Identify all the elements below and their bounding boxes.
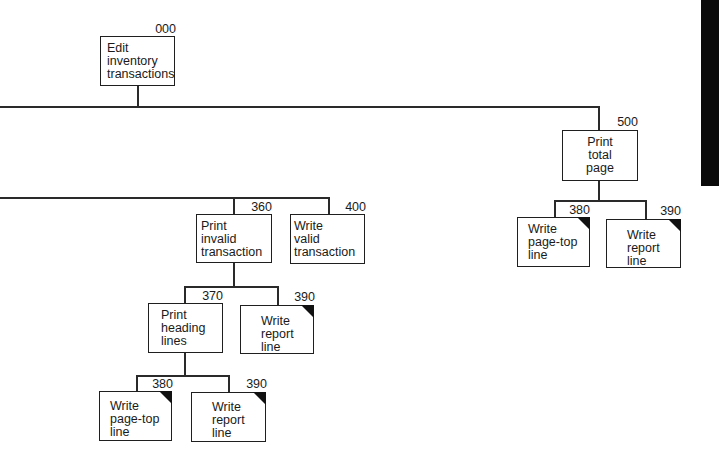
connector-400-up (328, 197, 330, 214)
reused-module-corner-icon (253, 392, 266, 405)
connector-level2-horizontal (0, 197, 329, 199)
node-print-total-page[interactable]: Print total page (562, 130, 638, 181)
connector-370-up (184, 286, 186, 303)
reused-module-corner-icon (301, 305, 314, 318)
connector-370-down (184, 352, 186, 376)
connector-380b-up (136, 375, 138, 391)
node-label-line: line (110, 426, 171, 439)
connector-390c-up (228, 375, 230, 392)
node-write-report-line[interactable]: Write report line (191, 392, 266, 442)
node-label-line: page (563, 162, 637, 175)
node-number-380: 380 (558, 204, 590, 217)
connector-360-down (233, 262, 235, 287)
node-number-390: 390 (649, 205, 681, 218)
connector-500-up (598, 106, 600, 130)
connector-390b-up (277, 286, 279, 305)
node-label-line: line (528, 249, 589, 262)
node-number-390: 390 (235, 378, 267, 391)
connector-000-down (137, 85, 139, 107)
connector-380a-up (554, 200, 556, 217)
node-number-380: 380 (141, 378, 173, 391)
connector-500-down (598, 180, 600, 201)
node-write-page-top-line[interactable]: Write page-top line (99, 391, 172, 441)
node-number-500: 500 (606, 116, 638, 129)
connector-390a-up (645, 200, 647, 219)
connector-500-children-horizontal (554, 200, 646, 202)
node-print-heading-lines[interactable]: Print heading lines (148, 303, 223, 353)
connector-level1-horizontal (0, 106, 599, 108)
node-write-report-line[interactable]: Write report line (240, 305, 314, 354)
node-label-line: transaction (294, 246, 364, 259)
reused-module-corner-icon (668, 219, 681, 232)
node-print-invalid-transaction[interactable]: Print invalid transaction (196, 214, 272, 263)
connector-360-up (233, 197, 235, 214)
reused-module-corner-icon (577, 217, 590, 230)
node-label-line: line (627, 255, 680, 268)
node-number-000: 000 (144, 23, 176, 36)
node-label-line: line (212, 427, 265, 440)
connector-370-children-horizontal (136, 375, 229, 377)
node-number-360: 360 (240, 201, 272, 214)
node-label-line: transaction (201, 246, 271, 259)
node-write-report-line[interactable]: Write report line (606, 219, 681, 268)
node-write-page-top-line[interactable]: Write page-top line (517, 217, 590, 267)
reused-module-corner-icon (159, 391, 172, 404)
node-label-line: transactions (107, 68, 174, 81)
node-label-line: lines (161, 335, 222, 348)
page-edge-tab (701, 0, 719, 186)
connector-360-children-horizontal (184, 286, 278, 288)
node-number-370: 370 (191, 290, 223, 303)
node-label-line: line (261, 341, 313, 354)
node-edit-inventory-transactions[interactable]: Edit inventory transactions (100, 36, 175, 86)
node-number-400: 400 (334, 201, 366, 214)
node-write-valid-transaction[interactable]: Write valid transaction (290, 214, 365, 264)
node-number-390: 390 (283, 291, 315, 304)
